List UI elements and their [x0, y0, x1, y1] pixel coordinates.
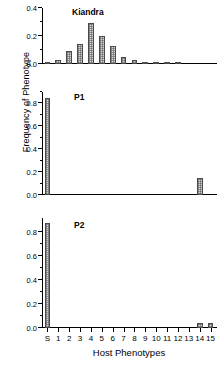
y-axis-tick-label: 0.2	[27, 300, 37, 308]
figure: Frequency of Phenotype 0.00.20.4 Kiandra…	[0, 0, 224, 365]
x-axis-tick	[124, 328, 125, 332]
y-axis-tick-minor	[40, 137, 43, 138]
y-axis-tick-minor	[40, 114, 43, 115]
y-axis-tick-minor	[40, 183, 43, 184]
y-axis-tick	[38, 279, 42, 280]
y-axis-tick-label: 0.0	[27, 324, 37, 332]
y-axis-tick-label: 0.8	[27, 100, 37, 108]
bar	[121, 57, 127, 64]
plot-area-p1: 0.00.20.40.60.8	[42, 92, 216, 195]
bar	[142, 62, 148, 64]
bar-series-p2	[42, 218, 216, 328]
y-axis-tick	[38, 35, 42, 36]
x-axis-tick-label: 10	[152, 334, 161, 343]
panel-p2: 0.00.20.40.60.8 P2	[42, 218, 216, 328]
bar-series-kiandra	[42, 8, 216, 64]
y-axis-tick	[38, 231, 42, 232]
x-axis-tick	[47, 328, 48, 332]
y-axis-tick	[38, 63, 42, 64]
x-axis-tick	[200, 328, 201, 332]
x-axis-tick-label: 13	[184, 334, 193, 343]
panel-p1: 0.00.20.40.60.8 P1	[42, 92, 216, 195]
x-axis-tick-label: 6	[110, 334, 114, 343]
x-axis-tick	[156, 328, 157, 332]
y-axis-tick	[38, 125, 42, 126]
x-axis-tick	[189, 328, 190, 332]
bar-series-p1	[42, 92, 216, 195]
y-axis-tick-label: 0.0	[27, 60, 37, 68]
bar	[197, 178, 203, 195]
x-axis-title: Host Phenotypes	[42, 347, 216, 358]
plot-area-kiandra: 0.00.20.4	[42, 8, 216, 64]
y-axis-tick-label: 0.8	[27, 229, 37, 237]
bar	[110, 46, 116, 64]
y-axis-tick-minor	[40, 91, 43, 92]
panel-label-kiandra: Kiandra	[72, 7, 104, 17]
x-axis-tick-label: S	[45, 334, 50, 343]
y-axis-tick-minor	[40, 49, 43, 50]
y-axis-tick-minor	[40, 243, 43, 244]
y-axis-tick-minor	[40, 267, 43, 268]
y-axis-tick-label: 0.0	[27, 191, 37, 199]
y-axis-tick	[38, 148, 42, 149]
panel-label-p1: P1	[74, 92, 84, 102]
plot-area-p2: 0.00.20.40.60.8	[42, 218, 216, 328]
x-axis-tick-label: 2	[67, 334, 71, 343]
bar	[175, 62, 181, 64]
x-axis-tick-label: 15	[206, 334, 215, 343]
y-axis-tick	[38, 303, 42, 304]
y-axis-tick	[38, 7, 42, 8]
y-axis-tick-minor	[40, 291, 43, 292]
y-axis-tick-minor	[40, 315, 43, 316]
y-axis-tick-minor	[40, 21, 43, 22]
y-axis-tick	[38, 194, 42, 195]
x-axis-tick	[69, 328, 70, 332]
y-axis-tick-label: 0.4	[27, 145, 37, 153]
x-axis-tick-label: 12	[173, 334, 182, 343]
bar	[45, 62, 51, 64]
bar	[88, 23, 94, 64]
x-axis-tick	[167, 328, 168, 332]
x-axis-tick-label: 4	[89, 334, 93, 343]
bar	[77, 44, 83, 64]
x-axis-tick-label: 11	[163, 334, 171, 343]
x-axis-tick-label: 3	[78, 334, 82, 343]
x-axis-tick	[145, 328, 146, 332]
x-axis-tick	[178, 328, 179, 332]
x-axis-tick-label: 9	[143, 334, 147, 343]
bar	[45, 98, 51, 195]
bar	[99, 36, 105, 64]
x-axis-tick	[80, 328, 81, 332]
y-axis-tick-label: 0.6	[27, 123, 37, 131]
y-axis-tick-label: 0.4	[27, 276, 37, 284]
y-axis-tick	[38, 255, 42, 256]
bar	[66, 51, 72, 64]
y-axis-tick-minor	[40, 160, 43, 161]
x-axis-tick	[211, 328, 212, 332]
bar	[132, 60, 138, 64]
x-axis-tick	[102, 328, 103, 332]
y-axis-tick-label: 0.6	[27, 253, 37, 261]
x-axis-tick	[91, 328, 92, 332]
bar	[45, 223, 51, 328]
x-axis-tick-label: 7	[121, 334, 125, 343]
x-axis-tick-label: 14	[195, 334, 204, 343]
y-axis-tick-label: 0.2	[27, 32, 37, 40]
x-axis-tick-label: 5	[100, 334, 104, 343]
panel-label-p2: P2	[74, 220, 84, 230]
bar	[164, 62, 170, 64]
y-axis-tick-label: 0.2	[27, 168, 37, 176]
y-axis-tick-label: 0.4	[27, 4, 37, 12]
bar	[55, 60, 61, 64]
y-axis-tick	[38, 102, 42, 103]
x-axis-tick	[58, 328, 59, 332]
x-axis-tick-label: 8	[132, 334, 136, 343]
x-axis: Host Phenotypes S123456789101112131415	[42, 328, 216, 362]
bar	[153, 62, 159, 64]
x-axis-tick	[113, 328, 114, 332]
y-axis-tick	[38, 171, 42, 172]
panel-kiandra: 0.00.20.4 Kiandra	[42, 8, 216, 64]
x-axis-tick-label: 1	[56, 334, 60, 343]
x-axis-tick	[134, 328, 135, 332]
